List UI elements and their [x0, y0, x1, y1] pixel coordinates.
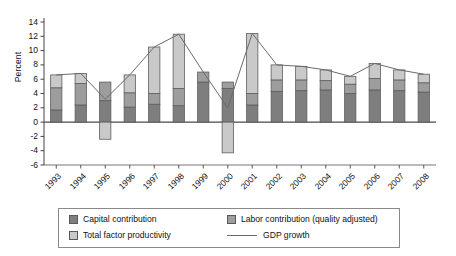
bar-segment — [320, 90, 331, 122]
bar-segment — [271, 91, 282, 122]
legend-label: Labor contribution (quality adjusted) — [241, 214, 378, 224]
bar-segment — [100, 101, 111, 122]
bar-segment — [345, 76, 356, 84]
bar-segment — [271, 65, 282, 80]
bar-segment — [124, 75, 135, 93]
bar-segment — [149, 94, 160, 105]
bar-segment — [198, 82, 209, 122]
legend-swatch — [69, 231, 78, 240]
bar-segment — [149, 104, 160, 122]
bar-segment — [320, 81, 331, 90]
bar-segment — [173, 34, 184, 88]
bar-segment — [296, 80, 307, 91]
bar-segment — [51, 75, 62, 88]
chart-legend: Capital contributionLabor contribution (… — [58, 208, 400, 248]
bar-segment — [222, 89, 233, 123]
legend-line-marker — [227, 235, 257, 236]
bar-segment — [100, 122, 111, 139]
bar-segment — [369, 90, 380, 122]
bar-segment — [247, 105, 258, 122]
bar-segment — [222, 82, 233, 88]
bar-segment — [369, 78, 380, 89]
bar-segment — [75, 83, 86, 104]
bar-segment — [345, 84, 356, 93]
legend-item[interactable]: GDP growth — [227, 230, 310, 240]
bar-segment — [51, 110, 62, 122]
bar-segment — [394, 70, 405, 80]
bar-segment — [124, 93, 135, 107]
bar-segment — [149, 47, 160, 93]
chart-figure: Percent -6-4-202468101214 19931994199519… — [0, 0, 456, 256]
bar-segment — [124, 107, 135, 122]
legend-item[interactable]: Labor contribution (quality adjusted) — [227, 214, 378, 224]
bar-segment — [247, 33, 258, 93]
bar-segment — [394, 91, 405, 122]
bar-segment — [247, 94, 258, 105]
legend-swatch — [227, 215, 236, 224]
gdp-growth-line — [56, 33, 424, 107]
bar-segment — [296, 66, 307, 80]
bar-segment — [51, 88, 62, 110]
legend-swatch — [69, 215, 78, 224]
bar-segment — [418, 83, 429, 92]
legend-item[interactable]: Total factor productivity — [69, 230, 171, 240]
bar-segment — [345, 94, 356, 123]
bar-segment — [320, 70, 331, 81]
bar-segment — [173, 89, 184, 106]
legend-label: Total factor productivity — [83, 230, 171, 240]
legend-item[interactable]: Capital contribution — [69, 214, 157, 224]
bar-segment — [75, 105, 86, 122]
bar-segment — [173, 106, 184, 122]
bar-segment — [418, 74, 429, 83]
bar-segment — [394, 80, 405, 91]
bar-segment — [418, 92, 429, 122]
bar-segment — [296, 91, 307, 122]
bar-segment — [100, 82, 111, 101]
legend-label: GDP growth — [263, 230, 310, 240]
legend-label: Capital contribution — [83, 214, 157, 224]
bar-segment — [271, 80, 282, 91]
bar-segment — [222, 122, 233, 153]
bar-segment — [75, 73, 86, 83]
